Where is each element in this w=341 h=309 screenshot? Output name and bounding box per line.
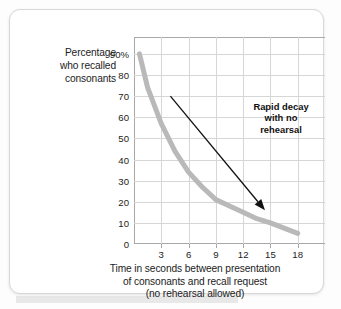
x-axis-title-line-1: Time in seconds between presentation: [70, 263, 320, 276]
y-axis-tick-label: 10: [118, 217, 129, 228]
x-axis-tick-label: 18: [292, 249, 303, 260]
y-axis-tick-label: 30: [118, 175, 129, 186]
plot-area: 90%80706050403020100 369121518 Rapid dec…: [134, 37, 325, 244]
data-series-line: [139, 54, 297, 234]
figure-card: Percentage who recalled consonants 90%80…: [9, 9, 324, 294]
figure-root: Percentage who recalled consonants 90%80…: [0, 0, 341, 309]
y-axis-tick-label: 40: [118, 154, 129, 165]
x-axis-tick-mark: [216, 244, 217, 248]
chart-overlay: [134, 37, 325, 244]
x-axis-tick-label: 12: [238, 249, 249, 260]
y-axis-title-line-1: Percentage: [26, 46, 116, 59]
x-axis-tick-label: 9: [213, 249, 218, 260]
x-axis-tick-mark: [189, 244, 190, 248]
x-axis-tick-mark: [243, 244, 244, 248]
y-axis-title-line-3: consonants: [26, 72, 116, 85]
y-axis-tick-label: 50: [118, 133, 129, 144]
x-axis-tick-label: 6: [186, 249, 191, 260]
y-axis-tick-label: 90%: [110, 48, 129, 59]
y-axis-title: Percentage who recalled consonants: [26, 46, 116, 86]
x-axis-tick-mark: [298, 244, 299, 248]
x-axis-title-line-2: of consonants and recall request: [70, 276, 320, 289]
x-axis-title: Time in seconds between presentation of …: [70, 263, 320, 301]
y-axis-tick-label: 70: [118, 91, 129, 102]
x-axis-tick-mark: [161, 244, 162, 248]
y-axis-tick-label: 60: [118, 112, 129, 123]
annotation-line-3: rehearsal: [238, 124, 324, 135]
y-axis-tick-label: 80: [118, 70, 129, 81]
annotation-label: Rapid decay with no rehearsal: [238, 101, 324, 135]
x-axis-title-line-3: (no rehearsal allowed): [70, 288, 320, 301]
annotation-line-1: Rapid decay: [238, 101, 324, 112]
annotation-line-2: with no: [238, 112, 324, 123]
x-axis-tick-label: 15: [265, 249, 276, 260]
x-axis-tick-mark: [270, 244, 271, 248]
x-axis-tick-label: 3: [159, 249, 164, 260]
y-axis-tick-label: 0: [124, 239, 129, 250]
y-axis-title-line-2: who recalled: [26, 59, 116, 72]
y-axis-tick-label: 20: [118, 196, 129, 207]
